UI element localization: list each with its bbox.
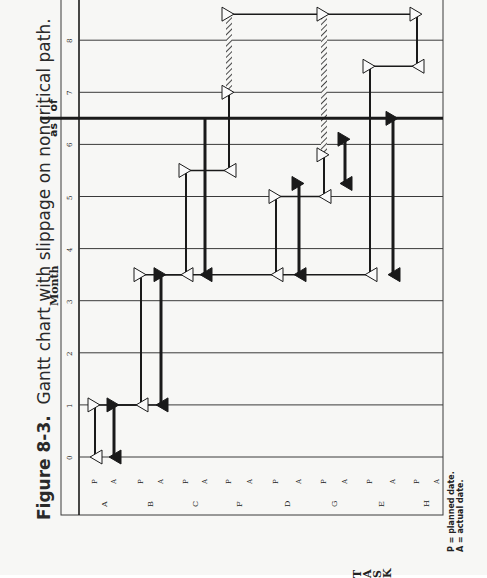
end-marker-H-P <box>410 7 422 21</box>
row-label-G-A: A <box>341 479 349 484</box>
row-label-C-A: A <box>201 479 209 484</box>
task-label-C: C <box>191 501 200 507</box>
date-markers <box>88 7 424 464</box>
row-label-F-A: A <box>246 479 254 484</box>
end-marker-E-P <box>363 59 375 73</box>
task-label-G: G <box>330 501 339 507</box>
figure-caption-text: Gantt chart with slippage on noncritical… <box>34 18 54 404</box>
slippage-F <box>226 14 232 92</box>
row-label-E-A: A <box>389 479 397 484</box>
month-tick-3: 3 <box>66 299 74 303</box>
row-label-C-P: P <box>182 479 190 484</box>
start-marker-E-P <box>365 268 377 282</box>
row-label-D-P: P <box>272 479 280 484</box>
task-label-H: H <box>422 500 431 507</box>
end-marker-A-P <box>88 398 100 412</box>
start-marker-A-P <box>90 450 102 464</box>
task-label-A: A <box>100 501 109 507</box>
slippage-G <box>321 14 327 155</box>
start-marker-G-P <box>319 190 331 204</box>
legend-planned: P = planned date. <box>447 471 456 552</box>
start-marker-F-P <box>224 163 236 177</box>
month-tick-8: 8 <box>66 39 74 43</box>
label-frame <box>61 0 443 515</box>
month-tick-0: 0 <box>66 456 74 460</box>
legend-actual: A = actual date. <box>456 471 465 552</box>
end-marker-D-P <box>269 190 281 204</box>
start-marker-C-P <box>181 268 193 282</box>
task-bars <box>95 14 417 457</box>
task-label-D: D <box>283 501 292 507</box>
month-tick-2: 2 <box>66 351 74 355</box>
row-label-D-A: A <box>295 479 303 484</box>
month-axis-label: Month <box>48 265 61 306</box>
row-label-B-A: A <box>157 479 165 484</box>
end-marker-C-P <box>179 163 191 177</box>
month-tick-5: 5 <box>66 195 74 199</box>
figure-number: Figure 8-3. <box>34 415 54 520</box>
as-of-label: as of <box>47 99 60 137</box>
end-marker-B-P <box>134 268 146 282</box>
row-label-A-A: A <box>110 479 118 484</box>
as-of-word-2: of <box>47 99 60 111</box>
month-tick-6: 6 <box>66 143 74 147</box>
task-label-F: F <box>235 501 244 507</box>
start-marker-D-P <box>271 268 283 282</box>
row-label-E-P: P <box>366 479 374 484</box>
month-tick-1: 1 <box>66 403 74 407</box>
month-tick-4: 4 <box>66 247 74 251</box>
task-axis-letter-K: K <box>382 568 393 578</box>
row-label-H-P: P <box>413 479 421 484</box>
legend: P = planned date. A = actual date. <box>447 471 465 552</box>
as-of-word-1: as <box>47 123 60 137</box>
row-label-F-P: P <box>225 479 233 484</box>
row-label-H-A: A <box>433 479 441 484</box>
start-marker-B-P <box>136 398 148 412</box>
task-label-B: B <box>146 501 155 507</box>
month-tick-7: 7 <box>66 91 74 95</box>
row-label-G-P: P <box>320 479 328 484</box>
month-gridlines <box>79 40 443 457</box>
start-marker-H-P <box>412 59 424 73</box>
row-label-A-P: P <box>91 479 99 484</box>
dependency-links <box>95 14 417 405</box>
row-label-B-P: P <box>137 479 145 484</box>
task-label-E: E <box>377 501 386 507</box>
